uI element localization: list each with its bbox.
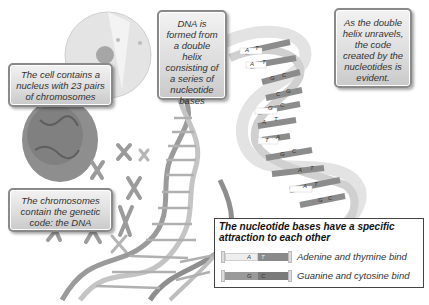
base-letter-g: G (247, 272, 252, 280)
svg-text:G: G (280, 151, 285, 157)
callout-unravel-text: As the double helix unravels, the code c… (343, 17, 404, 83)
svg-text:C: C (280, 102, 285, 108)
svg-text:A: A (249, 61, 254, 67)
legend-label-at: Adenine and thymine bind (297, 251, 407, 263)
svg-text:A: A (261, 119, 266, 125)
svg-text:G: G (286, 88, 291, 94)
svg-text:G: G (268, 105, 273, 111)
legend-label-gc: Guanine and cytosine bind (297, 270, 410, 282)
svg-text:A: A (275, 134, 280, 140)
adenine-segment (225, 253, 258, 261)
callout-helix-unravels: As the double helix unravels, the code c… (334, 8, 412, 88)
legend-row-guanine-cytosine: G C Guanine and cytosine bind (219, 270, 424, 284)
svg-text:C: C (328, 195, 333, 201)
svg-text:C: C (276, 91, 281, 97)
svg-text:G: G (318, 197, 323, 203)
svg-text:A: A (244, 47, 249, 53)
base-letter-t: T (261, 253, 265, 261)
legend-title: The nucleotide bases have a specific att… (219, 221, 419, 243)
svg-text:A: A (302, 183, 307, 189)
callout-dna-text: DNA is formed from a double helix consis… (166, 18, 219, 106)
legend-row-adenine-thymine: A T Adenine and thymine bind (219, 251, 424, 265)
base-pairing-legend: The nucleotide bases have a specific att… (214, 218, 424, 288)
guanine-segment (225, 272, 258, 280)
callout-chromosomes: The chromosomes contain the genetic code… (8, 188, 113, 232)
callout-cell-nucleus: The cell contains a nucleus with 23 pair… (8, 63, 113, 107)
bar-cap-right (288, 251, 292, 263)
bar-cap-right (288, 270, 292, 282)
nucleus-icon (22, 98, 98, 182)
base-letter-a: A (247, 253, 251, 261)
base-pair-at-icon: A T (221, 251, 287, 263)
svg-text:C: C (282, 72, 287, 78)
callout-cell-text: The cell contains a nucleus with 23 pair… (16, 69, 105, 102)
callout-chromosomes-text: The chromosomes contain the genetic code… (21, 195, 101, 228)
base-pair-gc-icon: G C (221, 270, 287, 282)
svg-text:C: C (292, 148, 297, 154)
svg-text:A: A (297, 167, 302, 173)
callout-dna-helix: DNA is formed from a double helix consis… (157, 10, 227, 100)
svg-text:G: G (270, 75, 275, 81)
base-letter-c: C (261, 272, 265, 280)
